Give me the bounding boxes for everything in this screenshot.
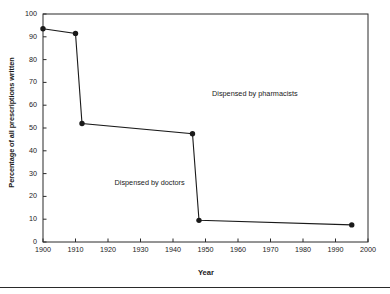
x-axis-ticks: [43, 239, 368, 243]
data-point-marker: [40, 26, 45, 31]
x-tick-label: 1990: [320, 246, 352, 254]
x-tick-label: 1930: [125, 246, 157, 254]
x-axis-title: Year: [43, 268, 369, 277]
data-point-marker: [79, 121, 84, 126]
y-tick-label: 40: [13, 147, 37, 155]
x-tick-label: 1900: [27, 246, 59, 254]
x-tick-label: 1960: [222, 246, 254, 254]
y-tick-label: 60: [13, 101, 37, 109]
x-tick-label: 1940: [157, 246, 189, 254]
x-tick-label: 1970: [255, 246, 287, 254]
x-tick-label: 1980: [287, 246, 319, 254]
chart-figure: Percentage of all prescriptions written …: [0, 0, 390, 294]
data-point-marker: [73, 31, 78, 36]
y-tick-label: 20: [13, 192, 37, 200]
y-tick-label: 90: [13, 33, 37, 41]
x-tick-label: 1950: [190, 246, 222, 254]
series-line: [43, 29, 352, 225]
y-tick-label: 0: [13, 238, 37, 246]
data-point-marker: [349, 222, 354, 227]
y-tick-label: 70: [13, 78, 37, 86]
y-tick-label: 50: [13, 124, 37, 132]
y-axis-ticks: [43, 14, 47, 242]
y-tick-label: 100: [13, 10, 37, 18]
plot-frame: [43, 14, 368, 242]
y-tick-label: 10: [13, 215, 37, 223]
x-tick-label: 1920: [92, 246, 124, 254]
data-point-marker: [196, 218, 201, 223]
footer-divider: [0, 287, 390, 288]
data-point-marker: [190, 131, 195, 136]
y-tick-label: 80: [13, 56, 37, 64]
chart-annotation-label: Dispensed by doctors: [115, 178, 185, 187]
x-tick-label: 1910: [60, 246, 92, 254]
chart-annotation-label: Dispensed by pharmacists: [212, 89, 298, 98]
y-tick-label: 30: [13, 170, 37, 178]
x-tick-label: 2000: [352, 246, 384, 254]
